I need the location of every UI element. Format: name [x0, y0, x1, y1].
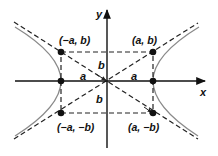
label-a-left: a: [80, 70, 86, 82]
label-a-right: a: [131, 70, 137, 82]
vertex-left: [58, 78, 65, 85]
label-pos-a-neg-b: (a, −b): [128, 121, 160, 133]
label-neg-a-neg-b: (−a, −b): [57, 121, 95, 133]
hyperbola-diagram: y x (−a, b) (a, b) (−a, −b) (a, −b) a a …: [0, 0, 218, 156]
y-axis-label: y: [95, 8, 103, 20]
vertex-right: [150, 78, 157, 85]
diagonal-arrow-from-neg-a-pos-b: [96, 74, 106, 81]
label-b-bottom: b: [96, 93, 103, 105]
x-axis-label: x: [199, 86, 207, 98]
label-pos-a-pos-b: (a, b): [132, 34, 158, 46]
point-neg-a-pos-b: [58, 49, 65, 56]
point-neg-a-neg-b: [58, 110, 65, 117]
label-b-top: b: [98, 59, 105, 71]
point-pos-a-pos-b: [150, 49, 157, 56]
label-neg-a-pos-b: (−a, b): [59, 34, 91, 46]
point-pos-a-neg-b: [150, 110, 157, 117]
